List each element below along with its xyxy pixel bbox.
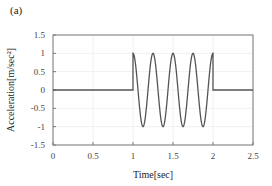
y-tick-label: 1.5	[34, 30, 46, 40]
x-tick-label: 2.5	[247, 151, 259, 161]
x-tick-label: 2	[211, 151, 216, 161]
acceleration-chart: 00.511.522.51.510.50-0.5-1-1.5 Time[sec]…	[0, 0, 272, 186]
y-tick-label: 0	[41, 85, 46, 95]
x-axis-label: Time[sec]	[133, 169, 173, 180]
y-tick-label: 0.5	[34, 67, 46, 77]
axis-ticks: 00.511.522.51.510.50-0.5-1-1.5	[31, 30, 259, 161]
y-axis-label: Acceleration[m/sec²]	[5, 48, 16, 132]
y-tick-label: -0.5	[31, 103, 46, 113]
x-tick-label: 0	[51, 151, 56, 161]
y-tick-label: 1	[41, 48, 46, 58]
x-tick-label: 0.5	[87, 151, 99, 161]
x-tick-label: 1	[131, 151, 136, 161]
x-tick-label: 1.5	[167, 151, 179, 161]
y-tick-label: -1	[38, 122, 46, 132]
y-tick-label: -1.5	[31, 140, 46, 150]
